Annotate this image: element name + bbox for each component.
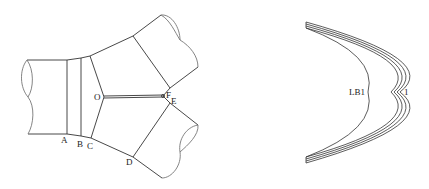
lower-branch-end-ellipse [180,125,198,152]
upper-branch-left-edge [90,36,133,56]
junction-bottom-edge [67,134,91,138]
upper-branch-outer-edge [133,15,161,36]
label-e: E [171,97,177,106]
line-o-top [90,56,104,97]
upper-branch-right-edge [170,67,198,88]
upper-branch-cut-line [133,36,170,88]
label-f: F [166,91,171,100]
label-c: C [87,142,93,151]
lower-branch-bottom-edge-2 [133,157,162,178]
label-1: 1 [404,88,409,97]
label-b: B [77,140,83,149]
line-o-c [91,97,104,138]
line-o-f-2 [104,97,163,98]
label-o: O [94,93,101,102]
lower-branch-bottom-edge-1 [91,138,133,157]
line-o-f-1 [104,95,163,96]
left-pipe-end-ellipse [27,60,32,97]
upper-branch-end-wave [161,15,198,67]
lower-branch-cut-line [133,103,170,157]
label-d: D [126,158,133,167]
lower-branch-top-edge [170,103,198,125]
junction-top-edge [67,56,90,60]
upper-branch-end-ellipse [161,15,180,40]
label-lb1: LB1 [349,88,365,97]
label-a: A [61,136,68,145]
